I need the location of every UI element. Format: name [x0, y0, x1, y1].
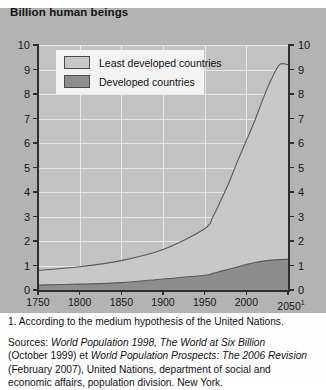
- x-axis-tick-label: 20501: [271, 297, 311, 312]
- y-axis-tick-label: 2: [298, 236, 320, 246]
- legend-swatch-icon: [64, 75, 90, 88]
- chart-legend: Least developed countries Developed coun…: [56, 50, 204, 94]
- axis-tick: [162, 291, 163, 295]
- y-axis-tick-label: 10: [8, 40, 30, 50]
- x-axis-tick-label: 1800: [60, 297, 100, 308]
- y-axis-tick-label: 3: [8, 212, 30, 222]
- y-axis-tick-label: 5: [8, 163, 30, 173]
- y-axis-tick-label: 4: [8, 187, 30, 197]
- y-axis-tick-label: 8: [298, 89, 320, 99]
- axis-tick: [33, 69, 37, 70]
- axis-tick: [290, 118, 294, 119]
- y-axis-tick-label: 3: [298, 212, 320, 222]
- sources-line-4: economic affairs, population division. N…: [8, 376, 324, 389]
- sources-line-3: (February 2007), United Nations, departm…: [8, 363, 324, 376]
- y-axis-tick-label: 0: [8, 285, 30, 295]
- axis-tick: [290, 142, 294, 143]
- axis-tick: [33, 167, 37, 168]
- axis-tick: [290, 216, 294, 217]
- axis-tick: [290, 69, 294, 70]
- axis-tick: [290, 93, 294, 94]
- legend-label: Developed countries: [99, 76, 195, 88]
- axis-tick: [33, 240, 37, 241]
- axis-tick: [37, 291, 38, 295]
- y-axis-tick-label: 9: [298, 65, 320, 75]
- y-axis-tick-label: 9: [8, 65, 30, 75]
- y-axis-left: [37, 44, 39, 291]
- y-axis-tick-label: 5: [298, 163, 320, 173]
- sources-prefix: Sources:: [8, 337, 51, 348]
- legend-item-developed: Developed countries: [64, 74, 195, 89]
- axis-tick: [287, 291, 288, 295]
- x-axis-tick-label: 1850: [101, 297, 141, 308]
- y-axis-tick-label: 8: [8, 89, 30, 99]
- axis-tick: [290, 167, 294, 168]
- x-axis-tick-label: 2000: [226, 297, 266, 308]
- footnote: 1. According to the medium hypothesis of…: [8, 316, 320, 328]
- y-axis-tick-label: 0: [298, 285, 320, 295]
- axis-tick: [121, 291, 122, 295]
- axis-tick: [290, 265, 294, 266]
- page-title: Billion human beings: [10, 6, 128, 18]
- axis-tick: [33, 216, 37, 217]
- axis-tick: [290, 44, 294, 45]
- legend-label: Least developed countries: [99, 57, 222, 69]
- y-axis-tick-label: 2: [8, 236, 30, 246]
- axis-tick: [290, 289, 294, 290]
- y-axis-tick-label: 7: [298, 114, 320, 124]
- sources-title-1: World Population 1998, The World at Six …: [51, 337, 265, 348]
- legend-item-least-developed: Least developed countries: [64, 55, 222, 70]
- y-axis-tick-label: 6: [8, 138, 30, 148]
- y-axis-tick-label: 10: [298, 40, 320, 50]
- axis-tick: [79, 291, 80, 295]
- axis-tick: [290, 240, 294, 241]
- axis-tick: [33, 191, 37, 192]
- axis-tick: [33, 93, 37, 94]
- y-axis-tick-label: 1: [8, 261, 30, 271]
- x-axis-tick-label: 1950: [185, 297, 225, 308]
- y-axis-tick-label: 1: [298, 261, 320, 271]
- x-axis-tick-label: 1750: [18, 297, 58, 308]
- axis-tick: [33, 118, 37, 119]
- sources-line-1: Sources: World Population 1998, The Worl…: [8, 336, 324, 349]
- x-axis-tick-label: 1900: [143, 297, 183, 308]
- legend-swatch-icon: [64, 56, 90, 69]
- axis-tick: [204, 291, 205, 295]
- y-axis-tick-label: 4: [298, 187, 320, 197]
- sources-line-2: (October 1999) et World Population Prosp…: [8, 349, 324, 362]
- area-least-developed-countries: [38, 64, 288, 290]
- axis-tick: [33, 142, 37, 143]
- axis-tick: [33, 265, 37, 266]
- sources-block: Sources: World Population 1998, The Worl…: [8, 336, 324, 390]
- y-axis-tick-label: 6: [298, 138, 320, 148]
- sources-paren: (October 1999) et: [8, 350, 91, 361]
- y-axis-tick-label: 7: [8, 114, 30, 124]
- axis-tick: [246, 291, 247, 295]
- axis-tick: [33, 44, 37, 45]
- axis-tick: [290, 191, 294, 192]
- footnote-marker: 1: [301, 299, 305, 306]
- sources-title-2: World Population Prospects: The 2006 Rev…: [91, 350, 307, 361]
